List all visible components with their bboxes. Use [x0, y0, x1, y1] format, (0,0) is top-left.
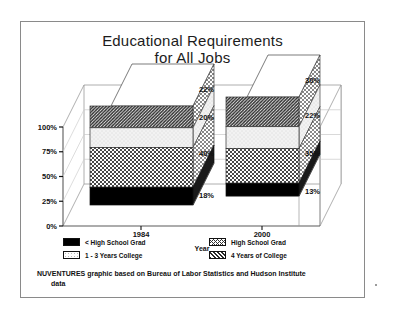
chart-legend: < High School Grad 1 - 3 Years College H… [63, 238, 333, 264]
legend-label-hsgrad: High School Grad [231, 239, 286, 246]
y-tick-100: 100% [38, 123, 58, 132]
y-tick-75: 75% [42, 147, 57, 156]
legend-swatch-hatch-icon [209, 251, 226, 259]
bar-2000-label-hsgrad: 35% [305, 149, 320, 158]
legend-swatch-crosshatch-icon [209, 238, 226, 246]
legend-label-somecollege: 1 - 3 Years College [85, 252, 142, 259]
legend-swatch-light-icon [63, 251, 80, 259]
bar-2000-label-college4: 30% [305, 76, 320, 85]
chart-footnote: NUVENTURES graphic based on Bureau of La… [37, 269, 352, 289]
corner-speck [375, 284, 377, 286]
y-axis: 100% 75% 50% 25% 0% [38, 123, 63, 231]
legend-label-college4: 4 Years of College [231, 252, 287, 259]
footnote-line2: data [51, 279, 352, 289]
y-tick-25: 25% [42, 197, 57, 206]
bar-2000[interactable]: 30% 22% 35% 13% 2000 [226, 55, 320, 239]
bar-1984-label-college4: 22% [199, 85, 214, 94]
legend-item-somecollege[interactable]: 1 - 3 Years College [63, 251, 142, 259]
legend-item-hsgrad[interactable]: High School Grad [209, 238, 286, 246]
legend-item-college4[interactable]: 4 Years of College [209, 251, 287, 259]
bar-1984-label-hsgrad: 40% [199, 149, 214, 158]
bar-2000-label-lesshs: 13% [305, 187, 320, 196]
footnote-line1: NUVENTURES graphic based on Bureau of La… [37, 270, 306, 277]
y-tick-50: 50% [42, 172, 57, 181]
bar-2000-label-somecollege: 22% [305, 111, 320, 120]
bar-1984-label-somecollege: 20% [199, 113, 214, 122]
legend-swatch-black-icon [63, 238, 80, 246]
legend-item-lesshs[interactable]: < High School Grad [63, 238, 146, 246]
legend-label-lesshs: < High School Grad [85, 239, 146, 246]
y-tick-0: 0% [46, 222, 57, 231]
bar-1984-label-lesshs: 18% [199, 191, 214, 200]
chart-frame: Educational Requirements for All Jobs [20, 21, 365, 298]
